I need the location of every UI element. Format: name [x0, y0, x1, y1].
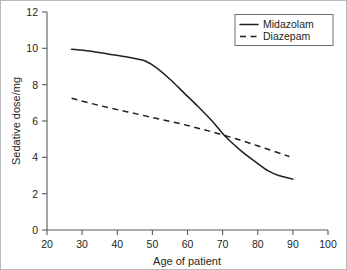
x-tick-label-30: 30 [76, 238, 88, 250]
y-axis-title: Sedative dose/mg [10, 77, 22, 165]
x-tick-label-60: 60 [182, 238, 194, 250]
y-tick-label-10: 10 [26, 42, 38, 54]
x-tick-label-70: 70 [217, 238, 229, 250]
x-tick-label-80: 80 [252, 238, 264, 250]
legend-label-midazolam: Midazolam [263, 18, 314, 30]
line-chart: 12 10 8 6 4 2 0 20 30 40 50 60 [1, 1, 347, 270]
x-axis-title: Age of patient [153, 255, 221, 267]
y-tick-label-8: 8 [32, 79, 38, 91]
y-tick-label-2: 2 [32, 188, 38, 200]
y-tick-label-4: 4 [32, 151, 38, 163]
y-tick-label-6: 6 [32, 115, 38, 127]
series-line-diazepam [72, 98, 290, 156]
series-line-midazolam [72, 49, 293, 179]
x-tick-label-20: 20 [41, 238, 53, 250]
chart-legend: Midazolam Diazepam [235, 15, 333, 46]
x-tick-label-90: 90 [287, 238, 299, 250]
data-series-group [72, 49, 293, 179]
y-tick-label-12: 12 [26, 6, 38, 18]
x-tick-label-100: 100 [319, 238, 337, 250]
legend-label-diazepam: Diazepam [263, 30, 311, 42]
x-tick-label-40: 40 [111, 238, 123, 250]
figure-container: 12 10 8 6 4 2 0 20 30 40 50 60 [0, 0, 347, 270]
y-axis-ticks: 12 10 8 6 4 2 0 [26, 6, 47, 236]
x-tick-label-50: 50 [147, 238, 159, 250]
y-tick-label-0: 0 [32, 224, 38, 236]
x-axis-ticks: 20 30 40 50 60 70 80 90 100 [41, 230, 337, 250]
